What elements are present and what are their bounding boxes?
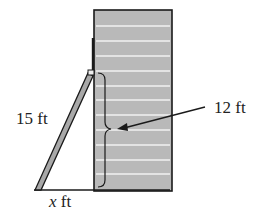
base-distance-label: x ft: [48, 192, 71, 211]
ladder-top-cap: [88, 70, 94, 75]
ladder: [35, 70, 94, 190]
base-unit: ft: [57, 192, 72, 211]
height-label: 12 ft: [214, 98, 246, 117]
building: [94, 10, 172, 191]
ladder-diagram: 15 ft 12 ft x ft: [0, 0, 271, 213]
ladder-length-label: 15 ft: [16, 109, 48, 128]
